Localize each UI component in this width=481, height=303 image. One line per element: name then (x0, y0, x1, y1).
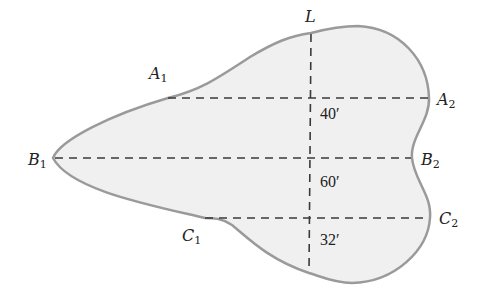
measurement-32: 32′ (320, 232, 340, 248)
label-b2: B2 (421, 152, 440, 170)
label-a2: A2 (437, 92, 456, 110)
label-c1: C1 (182, 228, 201, 246)
region-figure (0, 0, 481, 303)
label-b1: B1 (28, 152, 47, 170)
region-outline (53, 26, 430, 283)
label-a1: A1 (149, 66, 168, 84)
measurement-40: 40′ (320, 106, 340, 122)
diagram-canvas: L A1 A2 B1 B2 C1 C2 40′ 60′ 32′ (0, 0, 481, 303)
label-l: L (305, 9, 316, 25)
label-c2: C2 (439, 211, 458, 229)
measurement-60: 60′ (320, 174, 340, 190)
